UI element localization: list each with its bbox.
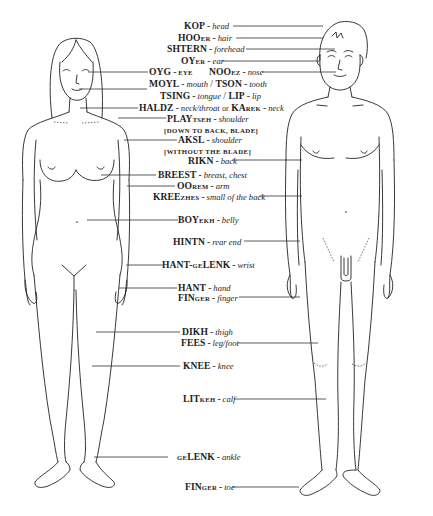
label-dash: -	[192, 90, 195, 101]
label-word: KNEE	[183, 360, 211, 371]
label-word: DIKH	[182, 326, 208, 337]
male-foot-left	[300, 470, 337, 495]
label-fees: FEES-leg/foot	[181, 337, 239, 349]
female-eye-right	[82, 70, 89, 72]
label-dash: -	[181, 78, 184, 89]
label-shtern: SHTERN-forehead	[167, 43, 245, 55]
label-translation: tongue	[198, 91, 221, 101]
male-mouth	[334, 75, 346, 77]
male-nipple-left	[313, 151, 319, 153]
label-dash: -	[198, 169, 201, 180]
label-translation: calf	[223, 394, 236, 404]
label-suffix: EKH	[199, 217, 215, 224]
label-translation: neck	[268, 103, 284, 113]
label-boyekh: BOYEKH-belly	[178, 214, 239, 226]
label-dash: -	[213, 113, 216, 124]
label-word: FIN	[185, 481, 202, 492]
label-dash: -	[210, 326, 213, 337]
label-dash: -	[232, 259, 235, 270]
label-playtseh: PLAYTSEH-shoulder	[167, 113, 249, 125]
label-translation: neck/throat	[181, 103, 220, 113]
label-word: BREEST	[158, 169, 196, 180]
label-knee: KNEE-knee	[183, 360, 234, 372]
female-leg-left	[34, 275, 74, 462]
label-dash: -	[263, 102, 266, 113]
label-suffix: EZ	[231, 69, 240, 76]
male-nose	[338, 60, 342, 70]
male-knee-left	[314, 363, 328, 366]
label-suffix: KEH	[200, 396, 216, 403]
male-chest	[301, 145, 379, 158]
label-dash: -	[207, 134, 210, 145]
label-word: OY	[181, 55, 196, 66]
label-hintn: HINTN-rear end	[173, 236, 241, 248]
label-translation: leg/foot	[213, 338, 239, 348]
label-suffix: TSEH	[193, 116, 212, 123]
label-translation: thigh	[215, 327, 233, 337]
female-breast-left	[40, 160, 76, 181]
female-nipple-left	[48, 167, 55, 169]
label-suffix: GER	[202, 484, 217, 491]
label-translation: head	[212, 21, 229, 31]
label-word: LIP	[228, 90, 244, 101]
label-rikn: RIKN-back	[188, 155, 237, 167]
male-hair	[320, 21, 368, 60]
male-navel	[345, 211, 347, 213]
label-dash: -	[201, 191, 204, 202]
label-dash: -	[243, 66, 246, 77]
label-translation: shoulder	[212, 135, 242, 145]
label-dash: -	[212, 292, 215, 303]
male-hand-right	[384, 275, 393, 298]
label-translation: forehead	[214, 44, 244, 54]
label-word: SHTERN	[167, 43, 207, 54]
label-suffix: ER	[201, 35, 211, 42]
label-translation: arm	[216, 181, 230, 191]
label-word: OYG	[149, 66, 171, 77]
female-navel	[76, 221, 78, 223]
label-oyg: OYG-EYE	[149, 66, 193, 78]
label-translation: mouth	[186, 79, 207, 89]
label-word: HANT-	[162, 259, 193, 270]
female-foot-left	[35, 462, 70, 487]
label-moyl-tson: MOYL-mouth / TSON-tooth	[149, 78, 267, 90]
label-suffix: GER	[195, 295, 210, 302]
label-dash: -	[215, 155, 218, 166]
label-word: KOP	[184, 20, 205, 31]
female-eye-left	[63, 70, 70, 72]
label-nooez: NOOEZ-nose	[209, 66, 264, 78]
label-translation: wrist	[237, 260, 254, 270]
label-translation: breast, chest	[204, 170, 247, 180]
female-nipple-right	[97, 167, 104, 169]
label-dash: -	[244, 78, 247, 89]
label-dash: -	[207, 20, 210, 31]
label-word: KREE	[153, 191, 181, 202]
label-suffix: REM	[192, 183, 208, 190]
label-or: or	[222, 104, 229, 113]
label-word: NOO	[209, 66, 231, 77]
female-nose	[76, 75, 79, 84]
female-leg-right	[76, 275, 120, 462]
male-hair-tuft	[332, 32, 343, 38]
label-prefix: GE	[193, 262, 203, 269]
male-nipple-right	[361, 151, 367, 153]
female-waist	[32, 180, 122, 275]
male-shoulders	[286, 97, 394, 160]
label-dash: -	[207, 55, 210, 66]
male-groin-lines	[323, 238, 369, 262]
label-translation: ear	[213, 56, 224, 66]
label-dash: -	[213, 360, 216, 371]
label-dash: -	[247, 90, 250, 101]
note-playtseh: [DOWN TO BACK, BLADE]	[164, 127, 258, 134]
label-translation: back	[221, 156, 237, 166]
label-word: MOYL	[149, 78, 179, 89]
label-translation: hair	[218, 33, 232, 43]
label-hant-gelenk: HANT-GELENK-wrist	[162, 259, 255, 271]
label-aksl: AKSL-shoulder	[178, 134, 242, 146]
label-dash: -	[207, 337, 210, 348]
label-translation: finger	[217, 293, 238, 303]
label-word: OO	[177, 180, 192, 191]
label-dash: -	[219, 481, 222, 492]
label-litkeh: LITKEH-calf	[183, 393, 236, 405]
label-dash: -	[207, 236, 210, 247]
label-dash: -	[217, 451, 220, 462]
